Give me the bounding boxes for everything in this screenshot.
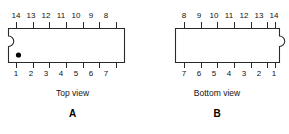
pin-number: 4 (54, 69, 68, 78)
figure-a-bottom-pin-numbers: 1 2 3 4 5 6 7 (9, 69, 113, 78)
figure-b-body-with-notch (176, 29, 285, 63)
figure-a-dip-package-top-view: 14 13 12 11 10 9 8 (0, 0, 145, 134)
figure-b-top-pin-leads (185, 22, 276, 28)
pin-number: 7 (177, 69, 191, 78)
figure-b-letter: B (145, 108, 289, 119)
pin-number: 5 (207, 69, 221, 78)
figure-a-top-pin-leads (17, 22, 117, 28)
pin-number: 2 (252, 69, 266, 78)
pin-number: 4 (222, 69, 236, 78)
pin-number: 6 (84, 69, 98, 78)
pin-number: 3 (237, 69, 251, 78)
figure-a-letter: A (0, 108, 145, 119)
figure-b-bottom-pin-numbers: 7 6 5 4 3 2 1 (177, 69, 281, 78)
pin-number: 6 (192, 69, 206, 78)
pin-number: 5 (69, 69, 83, 78)
pin-number: 2 (24, 69, 38, 78)
pin-number: 1 (267, 69, 281, 78)
figure-a-caption: Top view (0, 88, 145, 98)
figure-b-dip-package-bottom-view: 8 9 10 11 12 13 14 (145, 0, 289, 134)
pin-number: 1 (9, 69, 23, 78)
figure-b-caption: Bottom view (145, 88, 289, 98)
pin-number: 7 (99, 69, 113, 78)
diagram-canvas: 14 13 12 11 10 9 8 (0, 0, 289, 134)
figure-a-body-with-notch (9, 29, 125, 63)
pin-number: 3 (39, 69, 53, 78)
pin-1-indicator-dot (16, 52, 21, 57)
